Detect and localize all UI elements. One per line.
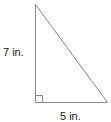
triangle-shape	[36, 5, 108, 103]
base-label: 5 in.	[60, 110, 81, 122]
right-triangle-figure	[0, 0, 111, 122]
height-label: 7 in.	[3, 46, 24, 58]
right-angle-marker	[36, 96, 43, 103]
